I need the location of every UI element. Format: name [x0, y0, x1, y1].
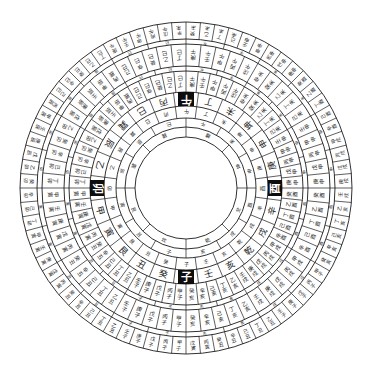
cell-label: 戊午	[162, 25, 169, 38]
cell-label: 丙午	[148, 27, 156, 40]
cell-label: 坤	[242, 118, 256, 132]
cell-label: 己卯	[73, 167, 87, 175]
division-line	[136, 123, 143, 133]
cell-label: 甲辰	[96, 77, 109, 91]
division-line	[57, 114, 61, 117]
cell-label: 丙辰	[107, 69, 119, 83]
cell-label: 己亥	[330, 231, 343, 240]
division-line	[156, 47, 161, 69]
cell-label: 己卯	[47, 163, 61, 171]
cell-label: 丙子	[165, 287, 173, 300]
division-line	[251, 130, 262, 139]
cell-label: 己巳	[55, 87, 67, 98]
cardinal-left: 卯	[90, 180, 105, 196]
cell-label: 丁未	[262, 114, 276, 127]
division-line	[236, 112, 245, 123]
division-line	[222, 145, 229, 152]
division-line	[281, 176, 302, 178]
division-line	[21, 201, 38, 202]
division-line	[81, 290, 85, 294]
cell-label: 丁酉	[308, 218, 322, 227]
cell-label: 戊子	[154, 283, 163, 297]
division-line	[136, 244, 143, 254]
division-line	[225, 332, 229, 348]
cardinal-top: 午	[178, 92, 194, 107]
cell-label: 甲午	[216, 52, 225, 66]
division-line	[154, 301, 155, 306]
cell-label: 壬子	[276, 307, 287, 319]
division-line	[155, 253, 160, 264]
cell-label: 癸亥	[188, 287, 195, 301]
cell-label: 壬寅	[33, 244, 46, 253]
division-line	[213, 112, 218, 123]
cell-label: 寅	[118, 202, 126, 209]
division-line	[197, 93, 199, 107]
cell-label: 丙子	[161, 313, 169, 326]
division-line	[121, 231, 131, 238]
division-line	[173, 269, 175, 283]
cell-label: 丙戌	[262, 249, 276, 262]
division-line	[239, 219, 247, 224]
cell-label: 庚午	[190, 48, 197, 62]
cell-label: 丙	[163, 110, 170, 118]
cell-label: 乙巳	[165, 76, 173, 89]
cell-label: 丑	[88, 258, 94, 264]
cell-label: 甲戌	[291, 255, 305, 267]
cell-label: 壬申	[242, 35, 251, 48]
center-hole	[135, 137, 237, 239]
cell-label: 庚子	[135, 332, 143, 344]
cell-label: 乙未	[203, 25, 210, 38]
division-line	[288, 290, 292, 294]
cell-label: 庚辰	[29, 136, 42, 145]
cell-label: 辰	[115, 146, 124, 154]
cell-label: 辰	[94, 69, 100, 75]
cell-label: 丙寅	[60, 243, 74, 254]
division-line	[242, 231, 252, 238]
cell-label: 庚寅	[76, 211, 91, 220]
cell-label: 震	[130, 163, 138, 170]
cell-label: 庚午	[108, 41, 118, 54]
division-line	[258, 59, 261, 63]
cell-label: 辛巳	[64, 76, 76, 87]
cell-label: 丙午	[229, 56, 239, 70]
cell-label: 丑	[94, 301, 100, 307]
division-line	[245, 289, 248, 293]
division-line	[229, 244, 236, 254]
cell-label: 戊寅	[54, 230, 69, 241]
division-line	[307, 173, 329, 175]
cell-label: 癸酉	[285, 190, 299, 197]
cardinal-label: 午	[181, 93, 192, 107]
division-line	[281, 198, 302, 200]
cell-label: 癸丑	[90, 240, 104, 252]
division-line	[81, 83, 85, 87]
division-line	[196, 72, 198, 93]
cell-label: 甲辰	[39, 110, 52, 120]
division-line	[91, 199, 105, 201]
division-line	[288, 83, 292, 87]
division-line	[251, 238, 262, 247]
cell-label: 癸巳	[74, 66, 85, 78]
cell-label: 丑	[67, 274, 73, 280]
cell-label: 甲寅	[29, 231, 42, 240]
division-line	[251, 157, 262, 162]
cell-label: 甲	[108, 204, 116, 211]
division-line	[199, 45, 201, 67]
cell-label: 離	[204, 132, 211, 140]
division-line	[325, 149, 330, 150]
cell-label: 戊戌	[336, 164, 349, 171]
cell-label: 丁巳	[96, 49, 106, 61]
cell-label: 丁丑	[113, 264, 125, 277]
cell-label: 庚	[265, 159, 278, 171]
cell-label: 戊申	[310, 163, 325, 171]
division-line	[112, 59, 115, 63]
division-line	[305, 213, 327, 218]
division-line	[267, 175, 281, 177]
cell-label: 己丑	[242, 327, 251, 340]
division-line	[334, 174, 351, 175]
cell-label: 庚寅	[39, 256, 52, 266]
cell-label: 巳	[166, 121, 172, 128]
cell-label: 壬寅	[47, 205, 62, 213]
cell-label: 乙丑	[108, 293, 120, 306]
cell-label: 庚辰	[96, 114, 111, 128]
cell-label: 乙丑	[265, 315, 275, 327]
